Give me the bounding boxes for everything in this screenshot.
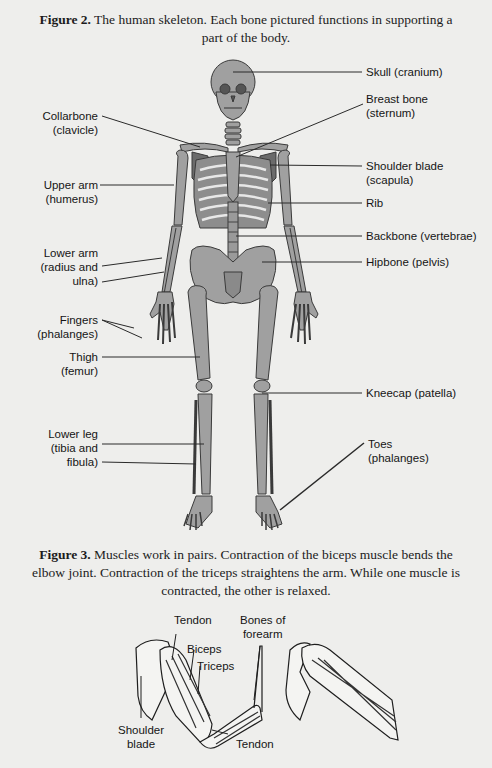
label-biceps: Biceps [187, 642, 222, 656]
label-triceps: Triceps [197, 659, 234, 673]
label-tendon-top: Tendon [174, 613, 212, 627]
label-bones-of-forearm: Bones of forearm [240, 613, 285, 641]
straight-arm-drawing [286, 643, 398, 740]
label-shoulder-blade-muscle: Shoulder blade [118, 723, 164, 751]
label-tendon-bottom: Tendon [236, 737, 274, 751]
arm-muscles-illustration [0, 0, 492, 768]
